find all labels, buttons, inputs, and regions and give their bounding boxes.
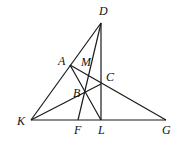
label-A: A [57,54,66,68]
geometry-diagram: D A M C B K F L G [0,0,184,144]
label-M: M [80,55,92,69]
labels: D A M C B K F L G [16,4,171,137]
label-K: K [16,114,26,128]
label-D: D [98,4,108,18]
segment-KD [31,23,101,120]
label-C: C [106,70,115,84]
label-B: B [73,86,81,100]
label-L: L [97,123,105,137]
label-G: G [162,123,171,137]
label-F: F [73,123,82,137]
segments [31,23,166,120]
